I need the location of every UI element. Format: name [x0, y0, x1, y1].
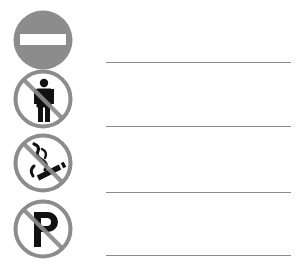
answer-line-3[interactable]	[106, 192, 291, 193]
sign-label: No smoking	[12, 194, 13, 195]
sign-label: No pedestrians	[12, 130, 13, 131]
answer-line-1[interactable]	[106, 62, 291, 63]
no-entry-sign: No entry	[12, 9, 74, 71]
no-smoking-sign: No smoking	[12, 132, 74, 194]
no-pedestrians-icon	[12, 68, 74, 130]
sign-label: No parking	[12, 260, 13, 261]
answer-line-4[interactable]	[106, 255, 291, 256]
no-smoking-icon	[12, 132, 74, 194]
no-pedestrians-sign: No pedestrians	[12, 68, 74, 130]
no-entry-icon	[12, 9, 74, 71]
cigarette-smoke-icon	[31, 144, 65, 178]
no-parking-icon	[12, 198, 74, 260]
no-parking-sign: No parking	[12, 198, 74, 260]
answer-line-2[interactable]	[106, 126, 291, 127]
